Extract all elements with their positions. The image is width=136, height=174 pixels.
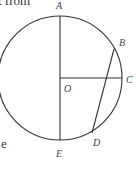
label-A: A xyxy=(55,0,63,11)
label-D: D xyxy=(92,137,101,148)
label-B: B xyxy=(119,37,125,48)
label-C: C xyxy=(126,74,133,85)
circle-diagram: A B C O D E xyxy=(0,0,136,174)
segment-BD xyxy=(92,49,114,133)
label-E: E xyxy=(55,148,62,159)
label-O: O xyxy=(64,83,71,94)
